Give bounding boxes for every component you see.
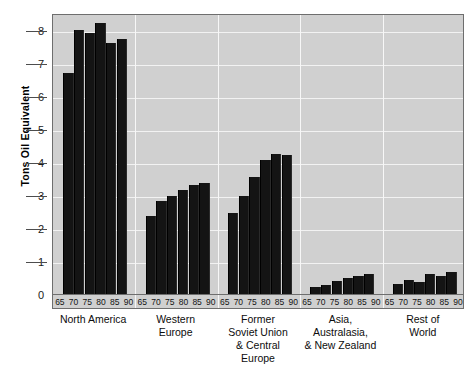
year-label: 85 bbox=[357, 297, 366, 307]
strip-separator bbox=[218, 295, 219, 308]
year-label: 80 bbox=[343, 297, 352, 307]
y-axis-tick-mark bbox=[26, 130, 47, 131]
region-caption-line: Rest of bbox=[382, 313, 464, 326]
bar bbox=[414, 282, 424, 294]
year-label: 70 bbox=[398, 297, 407, 307]
bar bbox=[343, 278, 353, 294]
panel-separator bbox=[135, 15, 136, 294]
region-caption: Asia,Australasia,& New Zealand bbox=[299, 313, 381, 352]
year-label: 85 bbox=[440, 297, 449, 307]
region-caption-line: & New Zealand bbox=[299, 339, 381, 352]
bar bbox=[282, 155, 292, 294]
bar bbox=[63, 73, 73, 294]
region-caption-line: & Central bbox=[217, 339, 299, 352]
bar bbox=[95, 23, 105, 294]
year-label: 65 bbox=[385, 297, 394, 307]
bar bbox=[106, 43, 116, 294]
y-axis-tick-mark bbox=[26, 262, 47, 263]
region-caption-line: Western bbox=[134, 313, 216, 326]
year-label: 90 bbox=[206, 297, 215, 307]
bar bbox=[228, 213, 238, 294]
region-caption-line: Soviet Union bbox=[217, 326, 299, 339]
panel-separator bbox=[383, 15, 384, 294]
region-caption-line: Europe bbox=[217, 352, 299, 365]
year-label-group: 657075808590 bbox=[53, 295, 135, 308]
bar bbox=[85, 33, 95, 294]
year-label: 65 bbox=[302, 297, 311, 307]
year-label-group: 657075808590 bbox=[383, 295, 465, 308]
panel-separator bbox=[218, 15, 219, 294]
region-caption-line: Europe bbox=[134, 326, 216, 339]
bar bbox=[199, 183, 209, 294]
year-label: 75 bbox=[247, 297, 256, 307]
bar bbox=[436, 276, 446, 295]
year-label: 65 bbox=[220, 297, 229, 307]
y-axis-tick-mark bbox=[26, 163, 47, 164]
y-axis-tick-mark bbox=[26, 229, 47, 230]
region-caption: WesternEurope bbox=[134, 313, 216, 339]
y-axis-tick-mark bbox=[26, 31, 47, 32]
year-label: 75 bbox=[165, 297, 174, 307]
y-axis-tick-mark bbox=[26, 64, 47, 65]
year-label: 85 bbox=[110, 297, 119, 307]
strip-separator bbox=[383, 295, 384, 308]
bar bbox=[189, 185, 199, 294]
year-label: 85 bbox=[192, 297, 201, 307]
gridline bbox=[53, 32, 463, 33]
year-label: 90 bbox=[289, 297, 298, 307]
bar bbox=[393, 284, 403, 294]
region-caption-line: Former bbox=[217, 313, 299, 326]
year-label-group: 657075808590 bbox=[218, 295, 300, 308]
y-axis-tick-mark bbox=[26, 196, 47, 197]
year-label: 75 bbox=[83, 297, 92, 307]
bar bbox=[249, 177, 259, 294]
year-label: 80 bbox=[96, 297, 105, 307]
year-label: 90 bbox=[124, 297, 133, 307]
year-label: 80 bbox=[179, 297, 188, 307]
bar bbox=[178, 190, 188, 294]
bar bbox=[332, 281, 342, 294]
year-label: 70 bbox=[234, 297, 243, 307]
year-label: 75 bbox=[330, 297, 339, 307]
region-caption: FormerSoviet Union& CentralEurope bbox=[217, 313, 299, 365]
year-label: 80 bbox=[426, 297, 435, 307]
bar bbox=[310, 287, 320, 294]
bar bbox=[425, 274, 435, 294]
bar bbox=[117, 39, 127, 294]
year-label: 90 bbox=[453, 297, 462, 307]
year-label: 90 bbox=[371, 297, 380, 307]
plot-area bbox=[52, 14, 464, 295]
bar bbox=[239, 196, 249, 294]
region-caption-line: Australasia, bbox=[299, 326, 381, 339]
y-axis-tick-mark bbox=[26, 97, 47, 98]
region-caption: Rest ofWorld bbox=[382, 313, 464, 339]
bar bbox=[364, 274, 374, 294]
bar bbox=[353, 276, 363, 294]
year-label: 85 bbox=[275, 297, 284, 307]
year-label-group: 657075808590 bbox=[135, 295, 217, 308]
year-label: 65 bbox=[55, 297, 64, 307]
strip-separator bbox=[135, 295, 136, 308]
bar bbox=[404, 280, 414, 294]
year-label-group: 657075808590 bbox=[300, 295, 382, 308]
year-label: 80 bbox=[261, 297, 270, 307]
bar bbox=[260, 160, 270, 294]
region-caption-line: World bbox=[382, 326, 464, 339]
bar bbox=[146, 216, 156, 294]
year-label: 75 bbox=[412, 297, 421, 307]
bar bbox=[321, 285, 331, 294]
bar bbox=[271, 154, 281, 295]
bar bbox=[74, 30, 84, 294]
strip-separator bbox=[300, 295, 301, 308]
year-label: 70 bbox=[316, 297, 325, 307]
bar bbox=[167, 196, 177, 294]
panel-separator bbox=[300, 15, 301, 294]
x-axis-year-strip: 6570758085906570758085906570758085906570… bbox=[52, 295, 464, 309]
region-caption-line: Asia, bbox=[299, 313, 381, 326]
bar bbox=[156, 201, 166, 294]
year-label: 70 bbox=[69, 297, 78, 307]
year-label: 65 bbox=[138, 297, 147, 307]
region-caption: North America bbox=[52, 313, 134, 326]
y-axis-tick-label: 0 bbox=[22, 289, 44, 301]
region-caption-line: North America bbox=[52, 313, 134, 326]
